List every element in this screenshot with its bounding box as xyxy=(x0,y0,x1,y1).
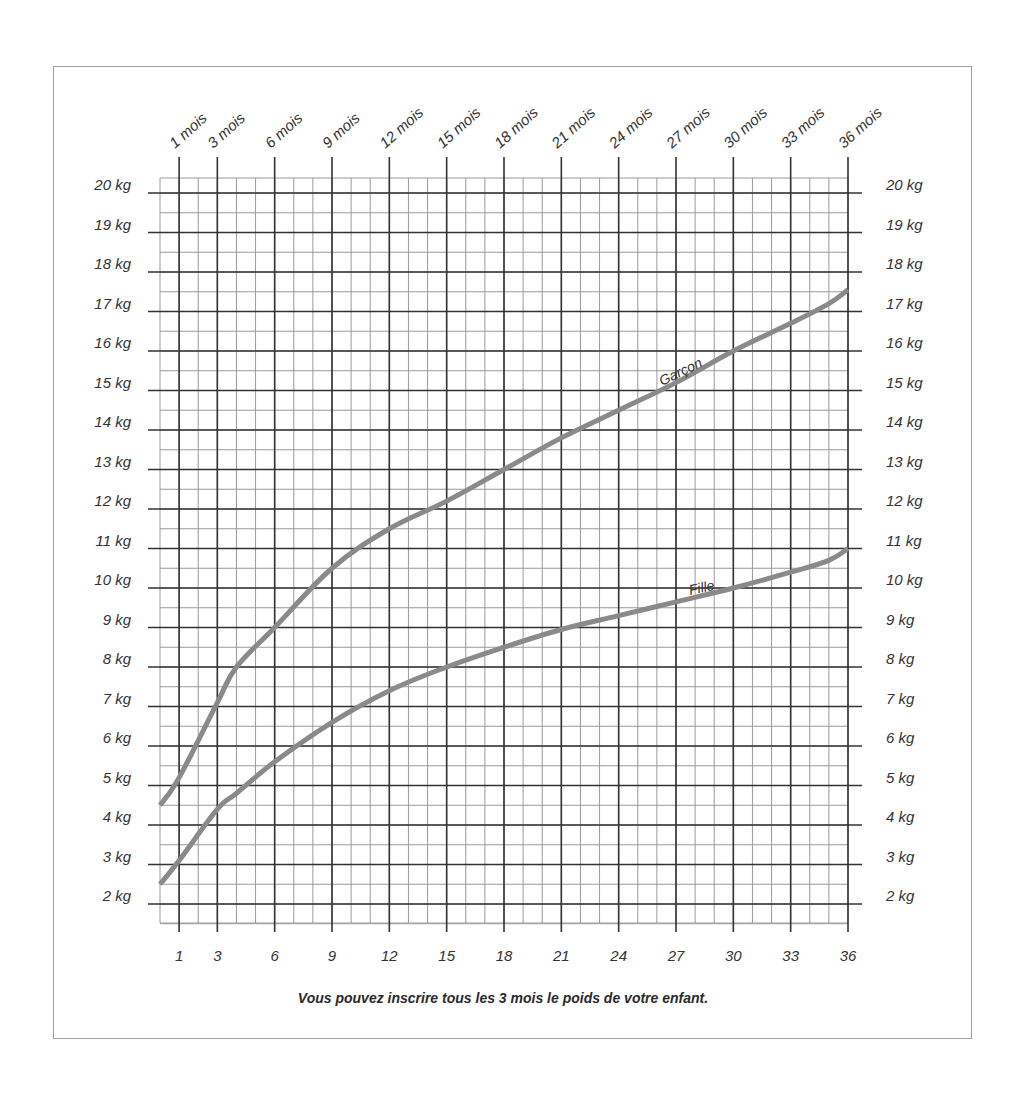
y-tick-label-right: 11 kg xyxy=(886,532,922,549)
y-tick-label-left: 20 kg xyxy=(93,176,131,193)
y-tick-label-left: 15 kg xyxy=(94,374,131,391)
x-tick-label-top: 6 mois xyxy=(261,109,306,152)
y-tick-label-left: 6 kg xyxy=(103,729,132,746)
y-tick-label-right: 17 kg xyxy=(886,295,923,312)
x-tick-label-top: 12 mois xyxy=(376,103,427,151)
x-tick-label-bottom: 36 xyxy=(840,947,857,964)
x-tick-label-bottom: 12 xyxy=(381,947,398,964)
y-tick-label-right: 20 kg xyxy=(885,176,923,193)
x-tick-label-bottom: 24 xyxy=(609,947,627,964)
x-tick-label-top: 1 mois xyxy=(166,109,211,152)
y-tick-label-right: 16 kg xyxy=(886,334,923,351)
y-tick-label-right: 10 kg xyxy=(886,571,923,588)
x-tick-label-bottom: 1 xyxy=(175,947,183,964)
x-tick-label-top: 18 mois xyxy=(491,103,542,151)
x-tick-label-bottom: 21 xyxy=(552,947,570,964)
y-tick-label-left: 7 kg xyxy=(103,690,132,707)
curve-label-garcon: Garçon xyxy=(656,354,704,389)
x-tick-label-bottom: 9 xyxy=(328,947,337,964)
y-tick-label-left: 17 kg xyxy=(94,295,131,312)
y-tick-label-left: 12 kg xyxy=(94,492,131,509)
y-tick-label-left: 11 kg xyxy=(95,532,131,549)
chart-caption: Vous pouvez inscrire tous les 3 mois le … xyxy=(0,990,1006,1006)
x-tick-label-bottom: 6 xyxy=(270,947,279,964)
y-tick-label-right: 19 kg xyxy=(886,216,923,233)
y-tick-label-right: 4 kg xyxy=(886,808,915,825)
y-tick-label-right: 9 kg xyxy=(886,611,915,628)
y-tick-label-left: 10 kg xyxy=(94,571,131,588)
y-tick-label-left: 2 kg xyxy=(102,887,132,904)
y-tick-label-left: 14 kg xyxy=(94,413,131,430)
y-tick-label-left: 8 kg xyxy=(103,650,132,667)
y-tick-label-left: 9 kg xyxy=(103,611,132,628)
y-tick-label-right: 13 kg xyxy=(886,453,923,470)
y-tick-label-left: 4 kg xyxy=(103,808,132,825)
x-tick-label-top: 3 mois xyxy=(204,109,249,152)
y-tick-label-left: 18 kg xyxy=(94,255,131,272)
y-tick-label-right: 3 kg xyxy=(886,848,915,865)
x-tick-label-top: 27 mois xyxy=(662,103,714,152)
x-tick-label-bottom: 33 xyxy=(782,947,799,964)
x-tick-label-top: 30 mois xyxy=(720,103,771,151)
y-tick-label-right: 6 kg xyxy=(886,729,915,746)
y-tick-label-right: 12 kg xyxy=(886,492,923,509)
x-tick-label-top: 36 mois xyxy=(835,103,886,151)
x-tick-label-top: 15 mois xyxy=(433,103,484,151)
y-tick-label-left: 16 kg xyxy=(94,334,131,351)
y-tick-label-right: 2 kg xyxy=(885,887,915,904)
x-tick-label-top: 21 mois xyxy=(547,103,599,152)
growth-chart: GarçonFille20 kg20 kg19 kg19 kg18 kg18 k… xyxy=(0,0,1025,1099)
y-tick-label-left: 13 kg xyxy=(94,453,131,470)
y-tick-label-left: 3 kg xyxy=(103,848,132,865)
x-tick-label-bottom: 30 xyxy=(725,947,742,964)
y-tick-label-left: 19 kg xyxy=(94,216,131,233)
y-tick-label-left: 5 kg xyxy=(103,769,132,786)
x-tick-label-bottom: 18 xyxy=(496,947,513,964)
y-tick-label-right: 5 kg xyxy=(886,769,915,786)
y-tick-label-right: 18 kg xyxy=(886,255,923,272)
y-tick-label-right: 14 kg xyxy=(886,413,923,430)
y-tick-label-right: 7 kg xyxy=(886,690,915,707)
x-tick-label-top: 33 mois xyxy=(777,103,828,151)
y-tick-label-right: 8 kg xyxy=(886,650,915,667)
x-tick-label-bottom: 3 xyxy=(213,947,222,964)
x-tick-label-top: 24 mois xyxy=(605,103,657,152)
x-tick-label-top: 9 mois xyxy=(319,109,364,152)
y-tick-label-right: 15 kg xyxy=(886,374,923,391)
x-tick-label-bottom: 27 xyxy=(667,947,685,964)
x-tick-label-bottom: 15 xyxy=(438,947,455,964)
